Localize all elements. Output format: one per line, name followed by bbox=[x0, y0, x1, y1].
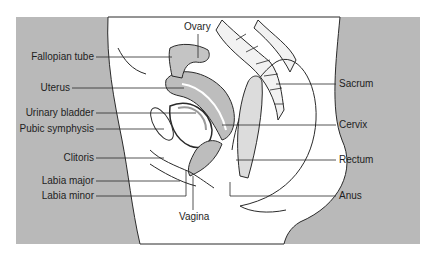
label-vagina: Vagina bbox=[179, 211, 209, 223]
label-labia-major: Labia major bbox=[42, 175, 94, 187]
label-uterus: Uterus bbox=[41, 82, 70, 94]
label-rectum: Rectum bbox=[339, 154, 373, 166]
label-labia-minor: Labia minor bbox=[42, 190, 94, 202]
label-urinary-bladder: Urinary bladder bbox=[26, 107, 94, 119]
label-ovary: Ovary bbox=[184, 21, 211, 33]
label-sacrum: Sacrum bbox=[339, 78, 373, 90]
label-clitoris: Clitoris bbox=[63, 152, 94, 164]
label-pubic-symphysis: Pubic symphysis bbox=[20, 123, 94, 135]
label-fallopian-tube: Fallopian tube bbox=[31, 51, 94, 63]
label-cervix: Cervix bbox=[339, 119, 367, 131]
label-anus: Anus bbox=[339, 190, 362, 202]
